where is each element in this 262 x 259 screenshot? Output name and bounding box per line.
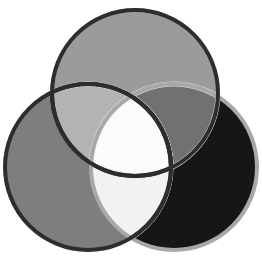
- venn-diagram-svg: [0, 0, 262, 259]
- venn-figure: [0, 0, 262, 259]
